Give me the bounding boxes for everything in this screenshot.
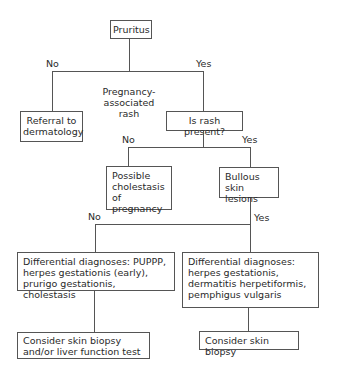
node-consider-right-label: Consider skin biopsy [205,335,269,357]
edge-label-no: No [88,211,101,222]
connector [203,71,204,111]
connector [203,131,204,147]
node-rash-present-label: Is rash present? [184,115,225,137]
node-consider-left-label: Consider skin biopsy and/or liver functi… [23,335,141,357]
connector [95,224,96,252]
node-bullous-label: Bullous skin lesions [225,171,260,204]
connector [250,198,251,252]
node-consider-right: Consider skin biopsy [199,331,299,350]
node-bullous: Bullous skin lesions [219,167,279,198]
node-cholestasis-label: Possible cholestasis of pregnancy [112,170,165,214]
connector [95,224,251,225]
edge-label-no: No [46,58,59,69]
node-rash-present: Is rash present? [166,111,243,131]
connector [128,147,251,148]
connector [94,291,95,332]
connector [128,147,129,166]
edge-label-yes: Yes [242,134,257,145]
connector [250,147,251,167]
node-diff-right: Differential diagnoses: herpes gestation… [182,252,319,308]
edge-label-no: No [122,134,135,145]
connector [129,39,130,71]
edge-label-yes: Yes [196,58,211,69]
connector [52,71,204,72]
node-cholestasis: Possible cholestasis of pregnancy [106,166,172,210]
node-pruritus: Pruritus [110,20,152,39]
node-referral: Referral to dermatology [20,111,83,142]
pregnancy-rash-note-text: Pregnancy-associated rash [102,86,155,119]
node-consider-left: Consider skin biopsy and/or liver functi… [17,332,150,359]
connector [248,308,249,331]
pregnancy-rash-note: Pregnancy-associated rash [100,86,158,119]
edge-label-yes: Yes [254,212,269,223]
node-diff-left: Differential diagnoses: PUPPP, herpes ge… [17,252,175,291]
node-diff-right-label: Differential diagnoses: herpes gestation… [188,256,306,300]
node-referral-label: Referral to dermatology [23,115,83,137]
node-pruritus-label: Pruritus [113,24,150,35]
connector [52,71,53,111]
